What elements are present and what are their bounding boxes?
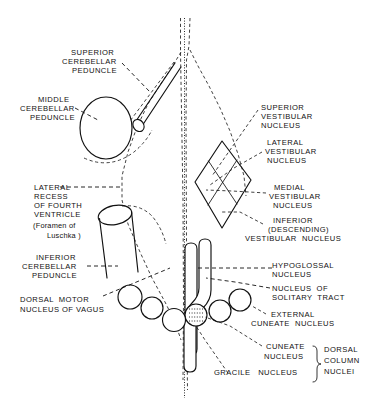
inf-vest-line2: (DESCENDING) [268,225,329,234]
ext-cuneate-line2: CUNEATE NUCLEUS [251,319,334,328]
sup-vest-line1: SUPERIOR [261,103,304,112]
mcp-label-line2: CEREBELLAR [20,104,75,113]
lateral-recess-line4: VENTRICLE [34,210,81,219]
med-vest-line1: MEDIAL [274,183,305,192]
icp-label-line2: CEREBELLAR [22,262,77,271]
gracile-nucleus-circle [185,304,207,326]
mcp-label-line3: PEDUNCLE [30,113,75,122]
gracile-line1: GRACILE NUCLEUS [214,368,298,377]
dcn-line1: DORSAL [324,345,358,354]
lateral-recess-line5: (Foramen of [33,221,76,230]
lat-vest-line2: VESTIBULAR [265,147,317,156]
external-cuneate-circle [229,289,251,311]
inf-vest-line1: INFERIOR [273,216,313,225]
scp-label-line1: SUPERIOR [71,48,114,57]
icp-label-line1: INFERIOR [36,253,76,262]
lat-vest-line1: LATERAL [267,138,303,147]
solitary-line2: SOLITARY TRACT [272,293,345,302]
med-vest-line3: NUCLEUS [273,201,312,210]
hypoglossal-line1: HYPOGLOSSAL [272,261,334,270]
lateral-recess-line6: Luschka ) [47,231,81,240]
label-cuneate-nucleus: CUNEATE NUCLEUS [264,342,305,361]
dcn-line2: COLUMN [324,356,360,365]
inf-vest-line3: VESTIBULAR NUCLEUS [245,234,341,243]
label-gracile-nucleus: GRACILE NUCLEUS [214,368,298,377]
vagus-circle-2 [141,297,163,319]
mcp-label-line1: MIDDLE [38,95,69,104]
scp-label-line2: CEREBELLAR [62,57,117,66]
cuneate-circle [209,300,231,322]
lateral-recess-line3: OF FOURTH [34,201,82,210]
med-vest-line2: VESTIBULAR [269,192,321,201]
icp-label-line3: PEDUNCLE [32,271,77,280]
sup-vest-line2: VESTIBULAR [261,112,313,121]
lateral-recess-line1: LATERAL [34,183,70,192]
dcn-line3: NUCLEI [324,367,355,376]
label-dorsal-column-nuclei: DORSAL COLUMN NUCLEI [324,345,360,376]
scp-label-line3: PEDUNCLE [72,66,117,75]
cuneate-line2: NUCLEUS [264,352,303,361]
vagus-circle-3 [163,309,186,332]
lateral-recess-line2: RECESS [34,192,68,201]
anatomical-diagram-root: SUPERIOR CEREBELLAR PEDUNCLE MIDDLE CERE… [0,0,383,410]
lat-vest-line3: NUCLEUS [267,156,306,165]
brainstem-nuclei-diagram: SUPERIOR CEREBELLAR PEDUNCLE MIDDLE CERE… [0,0,383,410]
solitary-line1: NUCLEUS OF [272,284,328,293]
vagus-label-line1: DORSAL MOTOR [20,295,89,304]
vagus-circle-1 [118,285,142,309]
sup-vest-line3: NUCLEUS [261,121,300,130]
hypoglossal-line2: NUCLEUS [272,270,311,279]
mcp-oval [80,97,132,159]
vagus-label-line2: NUCLEUS OF VAGUS [20,305,104,314]
cuneate-line1: CUNEATE [266,342,305,351]
ext-cuneate-line1: EXTERNAL [271,310,315,319]
